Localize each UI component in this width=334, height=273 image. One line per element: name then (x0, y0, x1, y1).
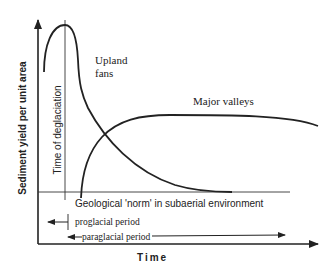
proglacial-label: proglacial period (75, 217, 140, 227)
paraglacial-arrow-right (152, 235, 285, 236)
upland-fans-label: Upland fans (95, 54, 130, 79)
major-valleys-curve (81, 115, 318, 198)
upland-fans-curve (44, 25, 232, 192)
geological-norm-label: Geological 'norm' in subaerial environme… (75, 198, 264, 209)
x-axis-label: Time (137, 252, 168, 263)
deglaciation-label: Time of deglaciation (52, 85, 63, 174)
y-axis-label: Sediment yield per unit area (17, 61, 28, 195)
major-valleys-label: Major valleys (193, 95, 254, 107)
paraglacial-label: paraglacial period (82, 232, 151, 242)
paraglacial-sediment-yield-diagram: Sediment yield per unit area Time of deg… (0, 0, 334, 273)
